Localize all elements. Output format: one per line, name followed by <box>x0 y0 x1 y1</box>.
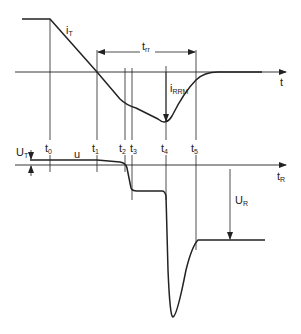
marker-t2: t2 <box>119 142 126 155</box>
time-axis-t-label: t <box>280 76 283 88</box>
current-waveform <box>22 19 262 122</box>
marker-t5: t5 <box>191 142 198 155</box>
irrm-label: iRRM <box>170 82 189 95</box>
ur-label: UR <box>235 194 248 207</box>
time-marker-labels: t0 t1 t2 t3 t4 t5 <box>45 142 198 155</box>
marker-t3: t3 <box>130 142 137 155</box>
marker-t4: t4 <box>161 142 168 155</box>
marker-t0: t0 <box>45 142 52 155</box>
current-label-it: iT <box>66 24 73 37</box>
ut-label: UT <box>16 146 29 159</box>
marker-t1: t1 <box>92 142 99 155</box>
voltage-label-u: u <box>74 148 80 160</box>
reverse-recovery-diagram: t tR t0 t1 t2 t3 t4 t5 iT trr iRRM u <box>0 0 301 334</box>
time-marker-lines <box>50 19 196 250</box>
time-axis-tr-label: tR <box>277 170 285 183</box>
trr-label: trr <box>142 40 150 53</box>
